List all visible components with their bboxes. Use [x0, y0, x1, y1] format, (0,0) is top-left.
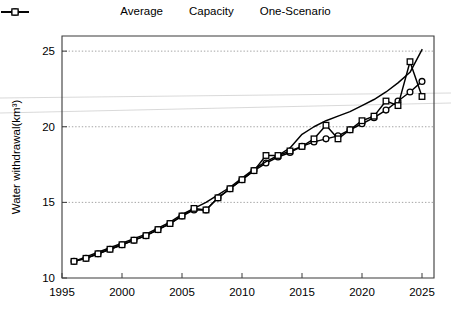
y-axis-title: Water withdrawal(km³) — [10, 100, 22, 215]
x-tick-label: 2005 — [169, 286, 195, 298]
y-tick-label: 15 — [42, 196, 55, 208]
series-line-one-scenario — [74, 62, 422, 262]
data-point-marker-average — [383, 107, 389, 113]
data-point-marker-one-scenario — [95, 251, 101, 257]
data-point-marker-one-scenario — [407, 59, 413, 65]
chart-series-group — [71, 50, 425, 265]
data-point-marker-one-scenario — [419, 94, 425, 100]
data-point-marker-one-scenario — [227, 186, 233, 192]
data-point-marker-one-scenario — [359, 118, 365, 124]
data-point-marker-one-scenario — [371, 113, 377, 119]
data-point-marker-one-scenario — [323, 122, 329, 128]
chart-figure: Average Capacity One-Scenario 1995200020… — [0, 0, 451, 312]
data-point-marker-one-scenario — [311, 136, 317, 142]
x-tick-label: 2020 — [349, 286, 375, 298]
data-point-marker-average — [407, 89, 413, 95]
data-point-marker-average — [419, 78, 425, 84]
data-point-marker-one-scenario — [179, 213, 185, 219]
data-point-marker-one-scenario — [131, 237, 137, 243]
data-point-marker-one-scenario — [287, 148, 293, 154]
data-point-marker-one-scenario — [155, 227, 161, 233]
data-point-marker-one-scenario — [203, 207, 209, 213]
x-axis-ticks: 1995200020052010201520202025 — [49, 273, 435, 298]
chart-plot-area: 1995200020052010201520202025 10152025 Wa… — [0, 0, 451, 312]
data-point-marker-one-scenario — [191, 206, 197, 212]
data-point-marker-one-scenario — [263, 153, 269, 159]
x-tick-label: 1995 — [49, 286, 75, 298]
data-point-marker-one-scenario — [143, 233, 149, 239]
x-tick-label: 2000 — [109, 286, 135, 298]
y-tick-label: 10 — [42, 272, 55, 284]
y-tick-label: 25 — [42, 45, 55, 57]
chart-axis-labels: Water withdrawal(km³) — [10, 100, 22, 215]
data-point-marker-average — [323, 136, 329, 142]
chart-gridlines — [62, 51, 434, 202]
data-point-marker-one-scenario — [215, 195, 221, 201]
data-point-marker-one-scenario — [71, 259, 77, 265]
data-point-marker-one-scenario — [83, 256, 89, 262]
data-point-marker-one-scenario — [299, 144, 305, 150]
series-line-average — [74, 81, 422, 261]
data-point-marker-one-scenario — [347, 127, 353, 133]
data-point-marker-one-scenario — [119, 242, 125, 248]
y-tick-label: 20 — [42, 121, 55, 133]
x-tick-label: 2015 — [289, 286, 315, 298]
series-line-capacity — [74, 50, 422, 262]
data-point-marker-one-scenario — [275, 153, 281, 159]
chart-axes-frame — [62, 36, 434, 278]
x-tick-label: 2025 — [409, 286, 435, 298]
data-point-marker-one-scenario — [239, 177, 245, 183]
data-point-marker-one-scenario — [251, 168, 257, 174]
y-axis-ticks: 10152025 — [42, 45, 67, 284]
x-tick-label: 2010 — [229, 286, 255, 298]
data-point-marker-one-scenario — [383, 98, 389, 104]
data-point-marker-one-scenario — [335, 136, 341, 142]
data-point-marker-one-scenario — [107, 246, 113, 252]
data-point-marker-one-scenario — [395, 103, 401, 109]
data-point-marker-one-scenario — [167, 221, 173, 227]
